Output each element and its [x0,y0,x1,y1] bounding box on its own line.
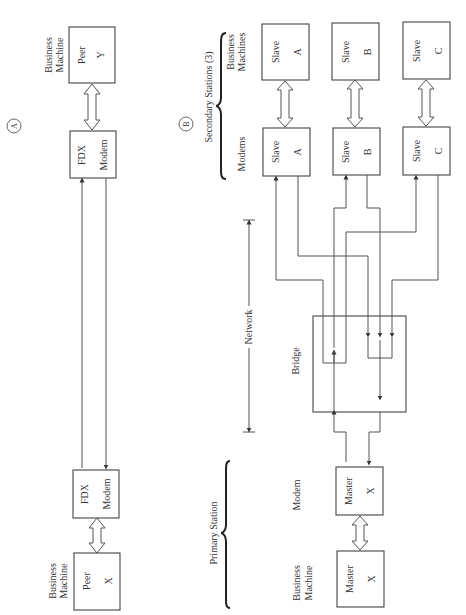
master-modem-id: X [365,487,376,495]
bridge-label: Bridge [290,347,301,375]
double-arrow-slave-b [347,80,363,127]
slave-modem-c: Slave C [403,127,450,175]
peer-y-role: Peer [76,45,87,63]
panel-a-marker: A [7,119,21,133]
double-arrow-peer-y [84,84,100,130]
panel-b: B Secondary Stations (3) Business Machin… [179,22,450,608]
panel-b-label: B [182,121,191,126]
network-label: Network [243,310,254,345]
business-machines-label-1: Business [225,34,236,70]
primary-modem-label: Modem [291,479,302,510]
panel-b-marker: B [179,117,193,131]
slave-modem-b-role: Slave [340,140,351,163]
peer-y-bm-label-1: Business [43,37,54,73]
fdx-modem-bottom: FDX Modem [73,470,119,518]
fdx-modem-top: FDX Modem [70,131,116,178]
slave-modem-a-role: Slave [270,140,281,163]
double-arrow-slave-a [277,81,293,127]
slave-modem-c-role: Slave [411,139,422,162]
peer-x-bm-label-1: Business [47,563,58,599]
fdx-bottom-name: Modem [101,478,112,509]
fdx-top-type: FDX [76,144,87,165]
fdx-bottom-type: FDX [79,483,90,504]
master-bm-id: X [366,575,377,583]
primary-station-label: Primary Station [208,501,219,564]
double-arrow-slave-c [418,80,434,126]
slave-modem-c-id: C [433,147,444,154]
slave-bm-c-id: C [433,47,444,54]
slave-bm-b-role: Slave [340,40,351,63]
master-modem-role: Master [343,476,354,504]
slave-bm-b: Slave B [332,23,379,80]
network-diagram: A Business Machine Peer Y FDX Modem FDX … [0,0,466,615]
peer-x-box: Peer X [74,553,120,610]
peer-y-id: Y [95,51,106,58]
primary-bm-label-1: Business [291,565,302,601]
double-arrow-peer-x [89,518,105,553]
peer-x-role: Peer [81,571,92,589]
master-modem: Master X [336,467,383,515]
primary-station-brace [221,461,230,608]
slave-modem-b: Slave B [333,128,380,175]
master-bm: Master X [337,551,384,607]
primary-bm-label-2: Machine [303,565,314,601]
peer-x-bm-label-2: Machine [58,563,69,599]
peer-y-bm-label-2: Machine [54,37,65,73]
peer-x-id: X [103,577,114,585]
slave-modem-b-id: B [362,148,373,155]
panel-a-label: A [10,123,19,129]
panel-a: A Business Machine Peer Y FDX Modem FDX … [7,27,120,610]
slave-modem-a-id: A [292,148,303,156]
business-machines-label-2: Machines [236,32,247,71]
slave-bm-a-id: A [292,48,303,56]
network-dimension: Network [243,220,255,432]
slave-modem-a: Slave A [263,128,310,176]
slave-bm-c-role: Slave [411,39,422,62]
fdx-top-name: Modem [98,139,109,170]
double-arrow-master [352,516,368,550]
secondary-stations-label: Secondary Stations (3) [203,51,215,142]
slave-bm-a: Slave A [262,24,309,80]
modems-label: Modems [236,136,247,171]
slave-bm-a-role: Slave [270,40,281,63]
slave-bm-c: Slave C [403,22,450,79]
master-bm-role: Master [344,564,355,592]
slave-bm-b-id: B [362,48,373,55]
peer-y-box: Peer Y [69,27,115,83]
